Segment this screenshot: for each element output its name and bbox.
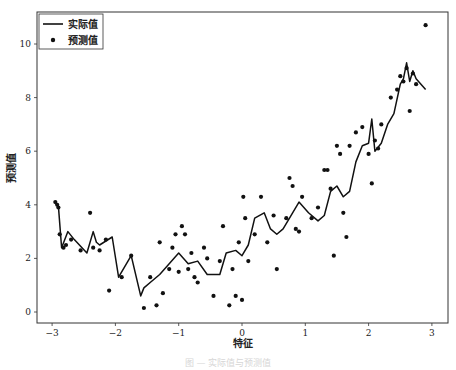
predicted-point	[69, 238, 73, 242]
predicted-point	[389, 96, 393, 100]
predicted-point	[332, 254, 336, 258]
predicted-point	[341, 211, 345, 215]
chart: −3−2−10123 0246810 特征 预测值 实际值 预测值	[0, 0, 456, 370]
y-tick-label: 10	[20, 39, 32, 49]
predicted-point	[120, 275, 124, 279]
predicted-point	[370, 181, 374, 185]
predicted-point	[234, 294, 238, 298]
predicted-point	[177, 270, 181, 274]
predicted-point	[189, 251, 193, 255]
predicted-point	[335, 144, 339, 148]
predicted-point	[98, 248, 102, 252]
predicted-point	[240, 298, 244, 302]
x-tick-label: −1	[172, 328, 185, 338]
predicted-point	[310, 216, 314, 220]
predicted-point	[408, 109, 412, 113]
predicted-point	[414, 82, 418, 86]
predicted-point	[294, 227, 298, 231]
predicted-point	[173, 232, 177, 236]
predicted-point	[237, 240, 241, 244]
predicted-point	[158, 240, 162, 244]
predicted-point	[246, 259, 250, 263]
legend-label-predicted: 预测值	[68, 34, 98, 46]
predicted-point	[183, 232, 187, 236]
plot-frame	[37, 12, 448, 323]
predicted-point	[161, 291, 165, 295]
predicted-point	[221, 224, 225, 228]
predicted-point	[376, 146, 380, 150]
predicted-point	[379, 122, 383, 126]
predicted-point	[142, 306, 146, 310]
predicted-point	[354, 130, 358, 134]
predicted-point	[398, 74, 402, 78]
predicted-point	[88, 211, 92, 215]
x-tick-label: −2	[109, 328, 122, 338]
predicted-point	[272, 213, 276, 217]
y-axis: 0246810	[20, 39, 37, 317]
legend-dot-icon	[51, 38, 55, 42]
predicted-point	[338, 152, 342, 156]
actual-line	[55, 63, 425, 296]
predicted-point	[284, 216, 288, 220]
predicted-point	[344, 235, 348, 239]
predicted-point	[367, 152, 371, 156]
predicted-point	[395, 88, 399, 92]
predicted-point	[154, 303, 158, 307]
predicted-point	[58, 232, 62, 236]
predicted-point	[91, 246, 95, 250]
x-tick-label: −3	[45, 328, 59, 338]
predicted-point	[265, 240, 269, 244]
y-axis-label: 预测值	[5, 153, 17, 183]
x-tick-label: 1	[302, 328, 308, 338]
predicted-point	[291, 184, 295, 188]
predicted-point	[129, 254, 133, 258]
predicted-point	[300, 195, 304, 199]
predicted-point	[360, 125, 364, 129]
predicted-point	[297, 230, 301, 234]
actual-line-series	[55, 63, 425, 296]
predicted-point	[167, 267, 171, 271]
predicted-point	[316, 205, 320, 209]
predicted-point	[411, 71, 415, 75]
predicted-point	[348, 144, 352, 148]
predicted-point	[79, 248, 83, 252]
predicted-point	[405, 66, 409, 70]
x-tick-label: 0	[239, 328, 245, 338]
predicted-point	[192, 275, 196, 279]
predicted-point	[211, 294, 215, 298]
y-tick-label: 0	[25, 307, 31, 317]
predicted-point	[107, 289, 111, 293]
x-tick-label: 3	[429, 328, 435, 338]
predicted-point	[202, 246, 206, 250]
predicted-point	[227, 303, 231, 307]
predicted-point	[424, 23, 428, 27]
x-axis-label: 特征	[233, 337, 253, 349]
predicted-point	[241, 195, 245, 199]
legend: 实际值 预测值	[39, 14, 103, 49]
legend-label-actual: 实际值	[68, 18, 98, 30]
predicted-point	[170, 246, 174, 250]
predicted-point	[104, 238, 108, 242]
predicted-point	[373, 138, 377, 142]
predicted-point	[205, 256, 209, 260]
predicted-point	[148, 275, 152, 279]
predicted-point	[275, 267, 279, 271]
plot-area	[37, 12, 448, 323]
predicted-point	[253, 232, 257, 236]
y-tick-label: 6	[25, 146, 31, 156]
predicted-point	[186, 267, 190, 271]
y-tick-label: 4	[25, 200, 31, 210]
predicted-point	[196, 280, 200, 284]
figure-caption: 图 — 实际值与预测值	[0, 356, 456, 369]
predicted-scatter-series	[53, 23, 428, 310]
predicted-point	[230, 267, 234, 271]
predicted-point	[64, 243, 68, 247]
x-axis: −3−2−10123	[45, 323, 435, 338]
predicted-point	[218, 259, 222, 263]
y-tick-label: 8	[25, 93, 31, 103]
predicted-point	[243, 216, 247, 220]
predicted-point	[56, 205, 60, 209]
predicted-point	[401, 79, 405, 83]
predicted-point	[259, 195, 263, 199]
predicted-point	[325, 168, 329, 172]
